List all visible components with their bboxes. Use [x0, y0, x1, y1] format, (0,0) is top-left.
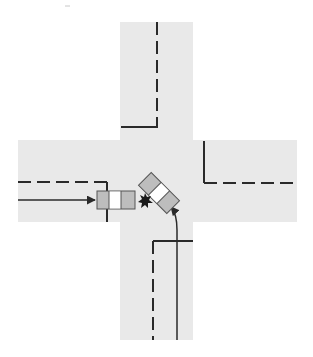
vehicle-a-window [109, 192, 121, 209]
intersection-diagram [0, 0, 313, 357]
vehicle-a [97, 191, 135, 209]
